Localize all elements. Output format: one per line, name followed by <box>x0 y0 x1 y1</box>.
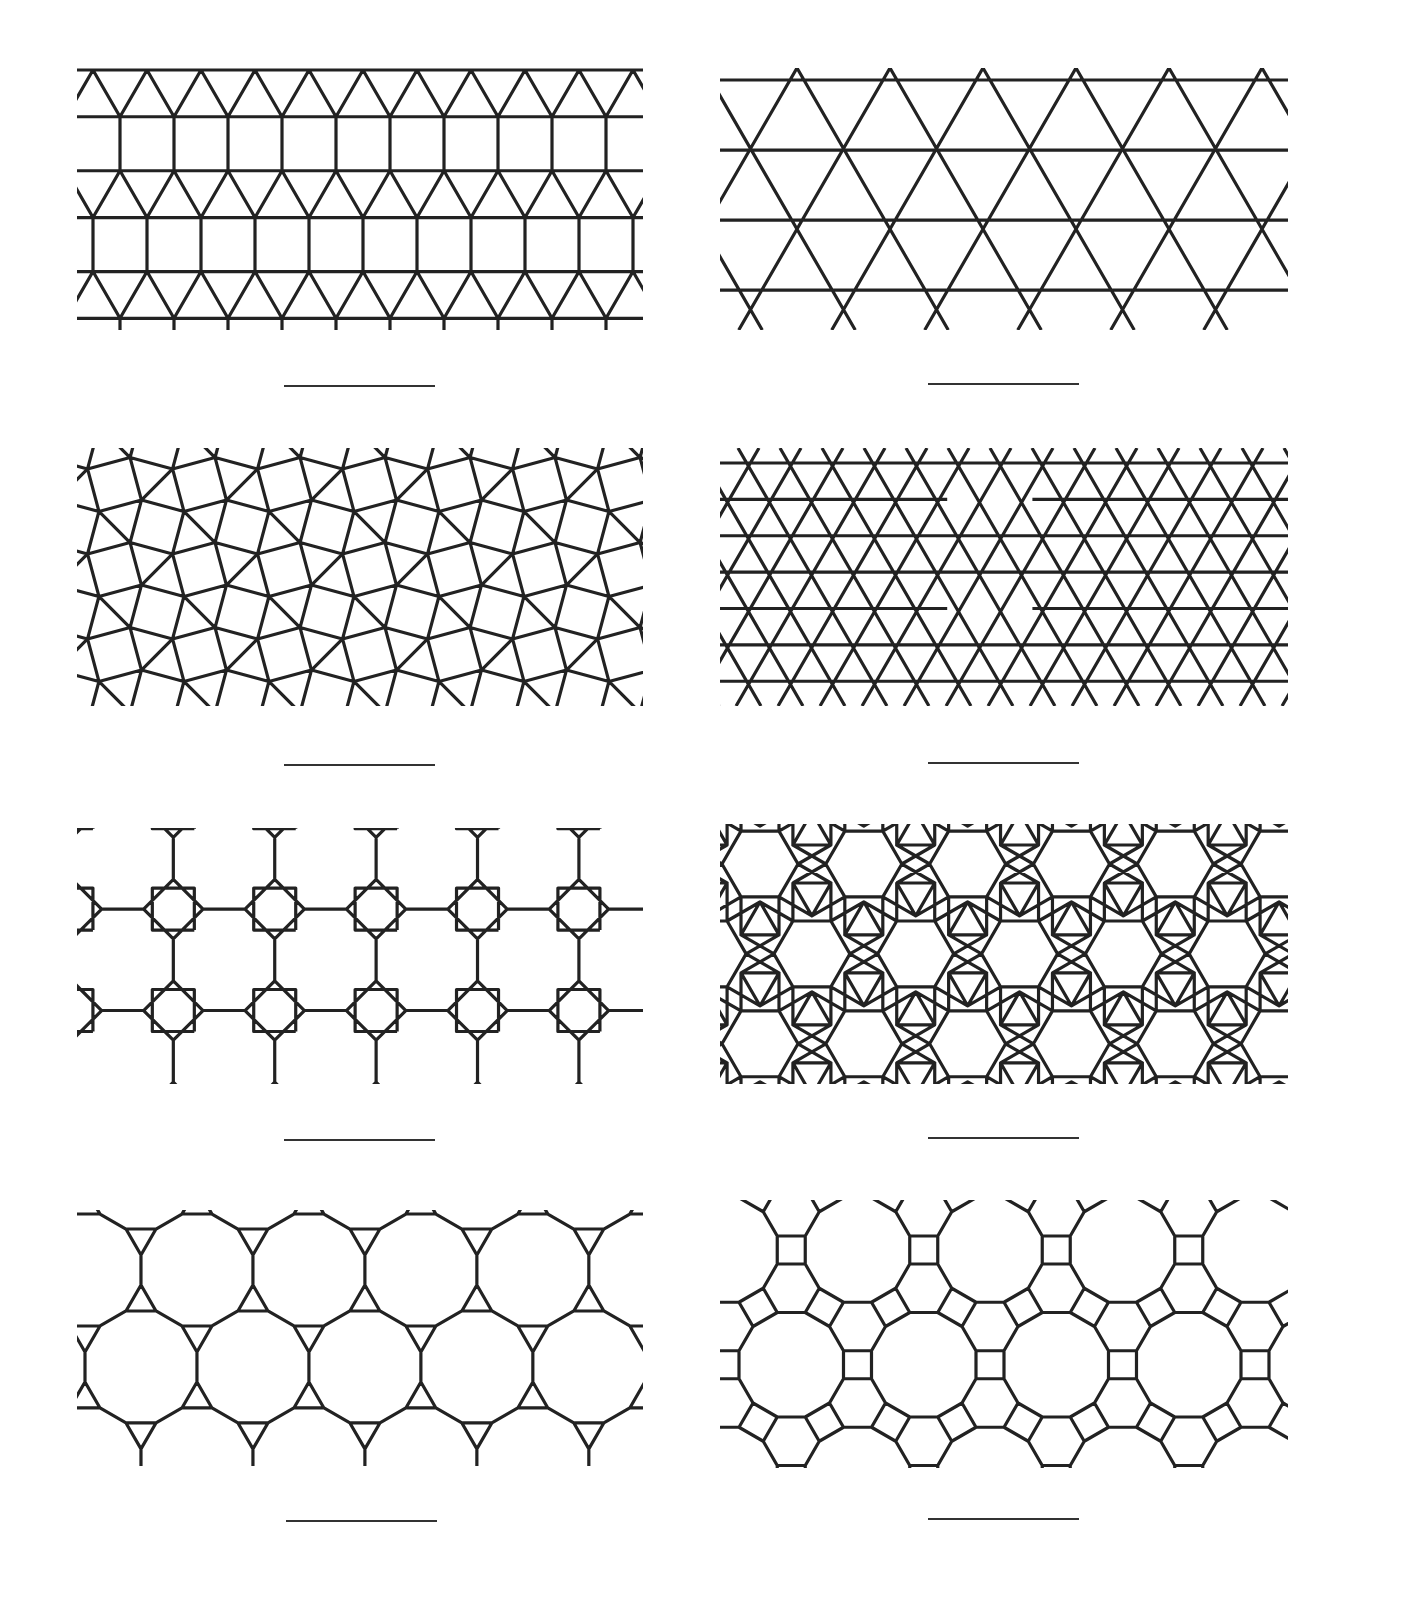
tiling-figure <box>77 1210 643 1466</box>
tiling-figure <box>77 448 643 706</box>
tiling-figure <box>720 448 1288 706</box>
tiling-figure <box>720 68 1288 330</box>
answer-blank-2[interactable] <box>928 383 1079 385</box>
answer-blank-7[interactable] <box>286 1520 437 1522</box>
tiling-figure <box>77 68 643 330</box>
tiling-panel-snub-square <box>77 448 643 706</box>
answer-blank-5[interactable] <box>284 1139 435 1141</box>
tiling-panel-rhombitrihexagonal <box>720 824 1288 1084</box>
tiling-panel-trihexagonal <box>720 68 1288 330</box>
tiling-panel-truncated-hexagonal <box>77 1210 643 1466</box>
tiling-figure <box>720 1200 1288 1468</box>
tiling-panel-truncated-square <box>77 828 643 1084</box>
tiling-panel-truncated-trihexagonal <box>720 1200 1288 1468</box>
answer-blank-8[interactable] <box>928 1518 1079 1520</box>
tiling-panel-elongated-triangular <box>77 68 643 330</box>
tiling-figure <box>720 824 1288 1084</box>
tiling-panel-kagome-variant <box>720 448 1288 706</box>
answer-blank-4[interactable] <box>928 762 1079 764</box>
answer-blank-3[interactable] <box>284 764 435 766</box>
answer-blank-6[interactable] <box>928 1137 1079 1139</box>
tiling-figure <box>77 828 643 1084</box>
answer-blank-1[interactable] <box>284 385 435 387</box>
